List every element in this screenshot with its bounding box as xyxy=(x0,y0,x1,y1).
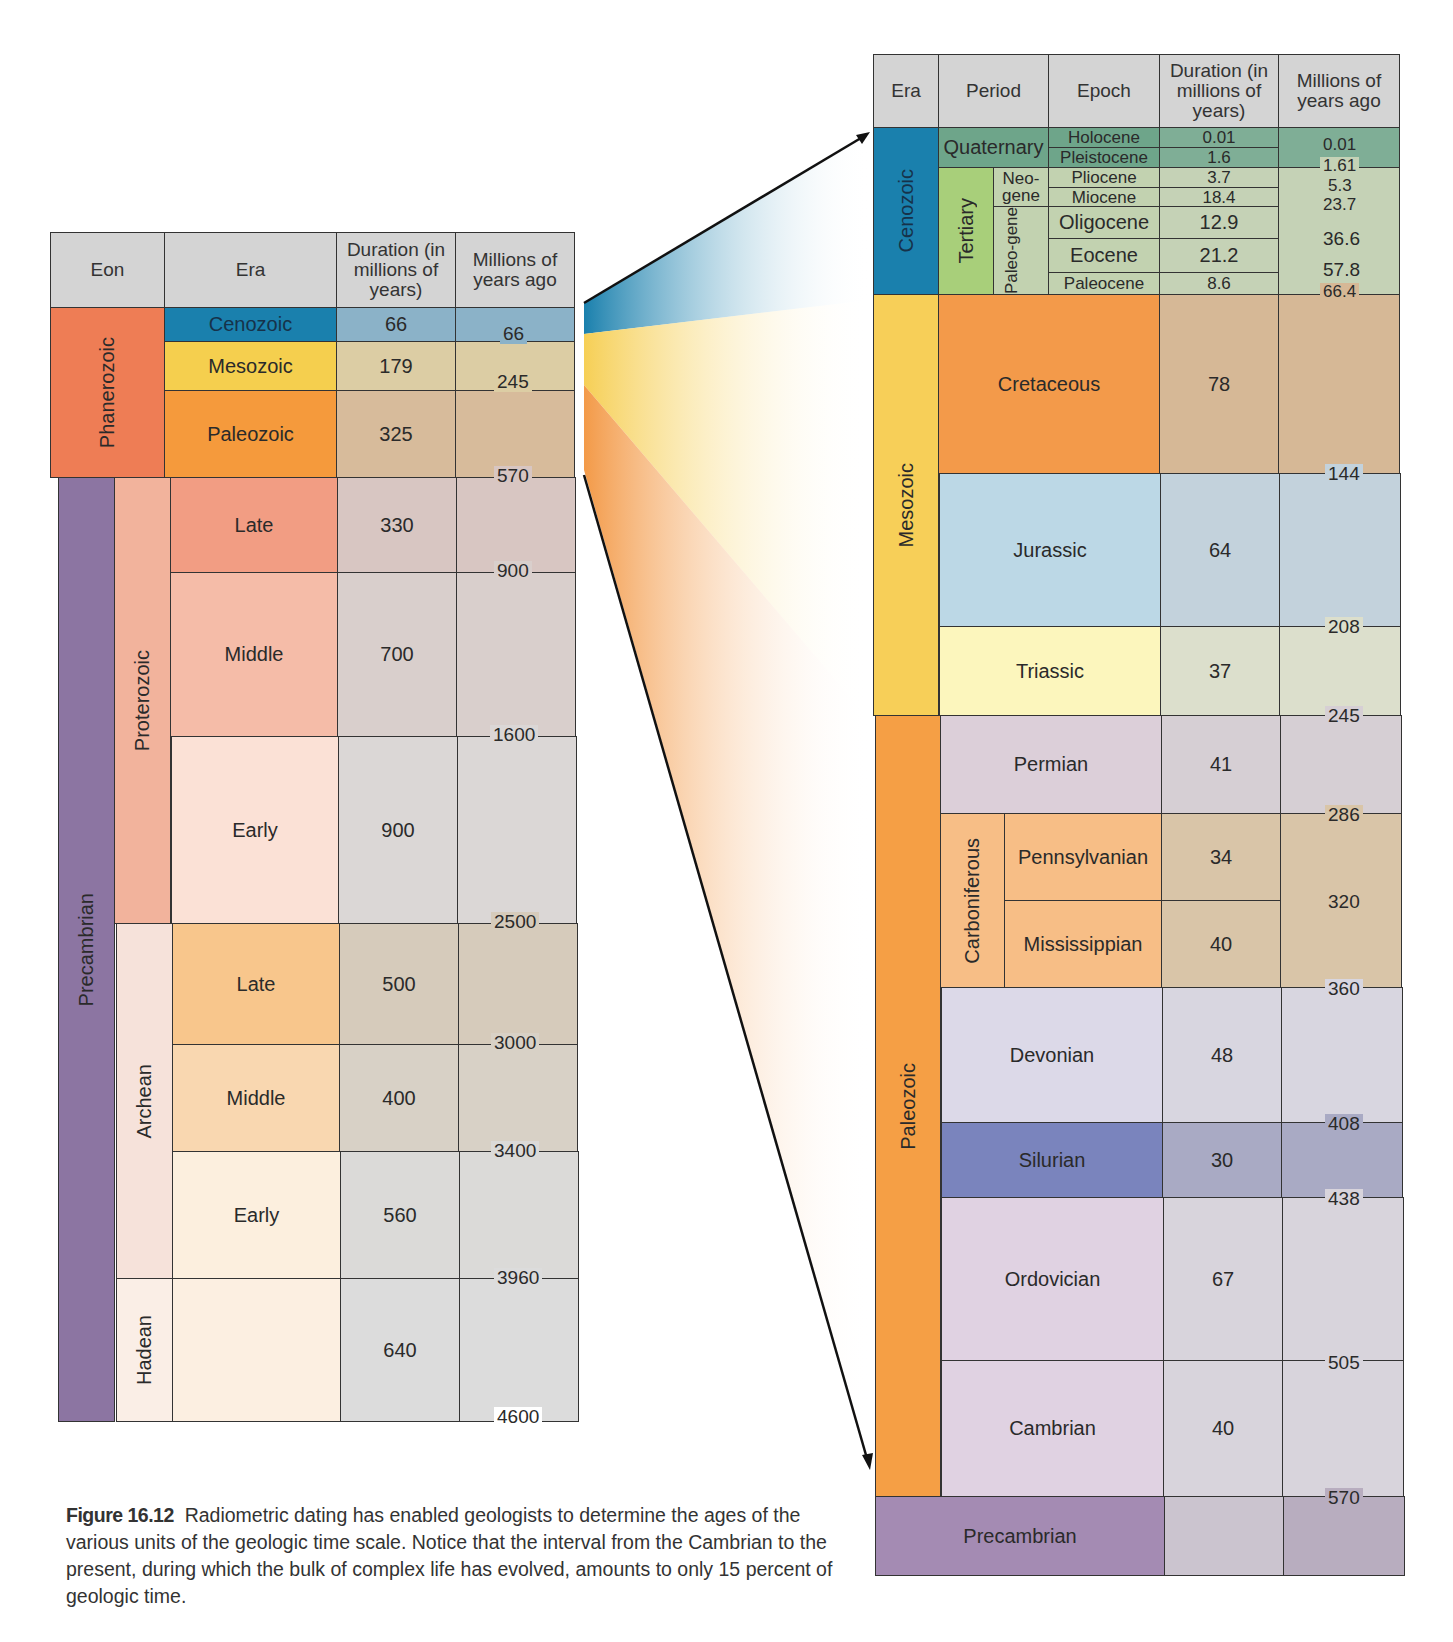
period-quaternary: Quaternary xyxy=(938,127,1049,168)
duration-value: 40 xyxy=(1210,933,1232,956)
duration-value: 700 xyxy=(380,643,413,666)
mya-cell xyxy=(1278,294,1400,474)
subeon-proterozoic-label: Proterozoic xyxy=(131,650,154,751)
duration-cell: 37 xyxy=(1160,626,1280,716)
duration-cell: 325 xyxy=(336,390,456,478)
period-silurian: Silurian xyxy=(941,1122,1163,1198)
header-period-label: Period xyxy=(966,81,1021,101)
boundary-label: 286 xyxy=(1325,805,1363,825)
mya-cell xyxy=(459,1278,579,1422)
header-era-label: Era xyxy=(236,260,266,280)
period-label: Cambrian xyxy=(1009,1417,1096,1440)
subeon-hadean: Hadean xyxy=(116,1278,173,1422)
period-ordovician: Ordovician xyxy=(941,1197,1164,1361)
boundary-label: 23.7 xyxy=(1320,196,1359,213)
era-middle-archean: Middle xyxy=(172,1044,340,1152)
epoch-label: Miocene xyxy=(1072,189,1136,206)
duration-cell: 21.2 xyxy=(1159,238,1279,273)
header-era: Era xyxy=(873,54,939,128)
header-epoch: Epoch xyxy=(1048,54,1160,128)
period-carboniferous-label: Carboniferous xyxy=(961,838,984,964)
header-mya: Millions of years ago xyxy=(455,232,575,308)
duration-cell: 18.4 xyxy=(1159,187,1279,207)
period-triassic: Triassic xyxy=(939,626,1161,716)
duration-cell: 1.6 xyxy=(1159,147,1279,168)
mya-cell xyxy=(458,923,578,1045)
duration-value: 37 xyxy=(1209,660,1231,683)
duration-cell: 40 xyxy=(1161,900,1281,988)
duration-value: 40 xyxy=(1212,1417,1234,1440)
subeon-hadean-label: Hadean xyxy=(133,1315,156,1385)
boundary-label: 900 xyxy=(494,561,532,581)
period-label: Ordovician xyxy=(1005,1268,1101,1291)
boundary-label: 3000 xyxy=(491,1033,539,1053)
duration-cell: 30 xyxy=(1162,1122,1282,1198)
subeon-archean: Archean xyxy=(116,923,173,1279)
period-label: Pennsylvanian xyxy=(1018,846,1148,869)
period-devonian: Devonian xyxy=(941,987,1163,1123)
duration-cell: 41 xyxy=(1161,715,1281,814)
duration-value: 67 xyxy=(1212,1268,1234,1291)
duration-value: 330 xyxy=(380,514,413,537)
boundary-label: 144 xyxy=(1325,464,1363,484)
era-mesozoic-label: Mesozoic xyxy=(895,463,918,547)
era-label: Late xyxy=(237,973,276,996)
era-label: Cenozoic xyxy=(209,313,292,336)
header-duration: Duration (in millions of years) xyxy=(336,232,456,308)
era-early-archean: Early xyxy=(172,1151,341,1279)
era-label: Mesozoic xyxy=(208,355,292,378)
period-quaternary-label: Quaternary xyxy=(943,136,1043,159)
mya-cell xyxy=(456,572,576,737)
subeon-proterozoic: Proterozoic xyxy=(114,477,171,924)
header-duration-label: Duration (in millions of years) xyxy=(1164,61,1274,121)
subperiod-paleogene: Paleo-gene xyxy=(993,206,1049,295)
mya-cell xyxy=(1282,1197,1404,1361)
epoch-label: Pliocene xyxy=(1071,169,1136,186)
duration-cell: 179 xyxy=(336,341,456,391)
duration-value: 1.6 xyxy=(1207,149,1231,166)
duration-value: 21.2 xyxy=(1200,244,1239,267)
boundary-label: 3400 xyxy=(491,1141,539,1161)
duration-value: 325 xyxy=(379,423,412,446)
duration-cell: 330 xyxy=(337,477,457,573)
boundary-label: 360 xyxy=(1325,979,1363,999)
duration-cell: 640 xyxy=(340,1278,460,1422)
epoch-label: Pleistocene xyxy=(1060,149,1148,166)
epoch-label: Eocene xyxy=(1070,244,1138,267)
mya-cell xyxy=(1279,626,1401,716)
mya-cell xyxy=(1281,987,1403,1123)
era-cenozoic: Cenozoic xyxy=(873,127,939,295)
boundary-label: 57.8 xyxy=(1320,260,1363,280)
header-eon: Eon xyxy=(50,232,165,308)
duration-cell: 40 xyxy=(1163,1360,1283,1497)
period-tertiary: Tertiary xyxy=(938,167,994,295)
duration-cell: 12.9 xyxy=(1159,206,1279,239)
era-late-proterozoic: Late xyxy=(170,477,338,573)
epoch-paleocene: Paleocene xyxy=(1048,272,1160,295)
epoch-label: Paleocene xyxy=(1064,275,1144,292)
duration-value: 12.9 xyxy=(1200,211,1239,234)
boundary-label: 570 xyxy=(494,466,532,486)
header-mya-label: Millions of years ago xyxy=(1287,71,1391,111)
duration-value: 560 xyxy=(383,1204,416,1227)
mya-cell xyxy=(458,1044,578,1152)
boundary-label: 66.4 xyxy=(1320,283,1359,300)
header-duration-label: Duration (in millions of years) xyxy=(341,240,451,300)
duration-value: 34 xyxy=(1210,846,1232,869)
header-period: Period xyxy=(938,54,1049,128)
era-precambrian: Precambrian xyxy=(875,1496,1165,1576)
era-paleozoic: Paleozoic xyxy=(875,715,941,1497)
duration-cell: 66 xyxy=(336,307,456,342)
arrow-head-bottom xyxy=(862,1453,873,1470)
duration-value: 64 xyxy=(1209,539,1231,562)
subperiod-mississippian: Mississippian xyxy=(1004,900,1162,988)
duration-cell: 64 xyxy=(1160,473,1280,627)
eon-precambrian: Precambrian xyxy=(58,477,115,1422)
duration-cell: 560 xyxy=(340,1151,460,1279)
epoch-eocene: Eocene xyxy=(1048,238,1160,273)
header-duration: Duration (in millions of years) xyxy=(1159,54,1279,128)
duration-cell: 700 xyxy=(337,572,457,737)
period-cambrian: Cambrian xyxy=(941,1360,1164,1497)
period-cretaceous: Cretaceous xyxy=(938,294,1160,474)
duration-cell: 67 xyxy=(1163,1197,1283,1361)
